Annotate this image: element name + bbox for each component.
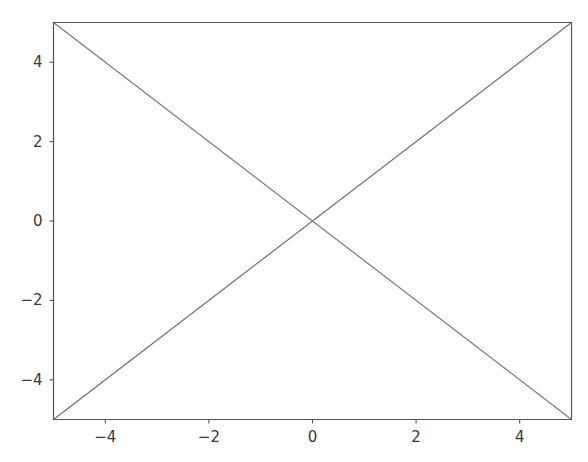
x-axis-ticks: −4−2024 xyxy=(94,420,524,446)
y-tick-label-2: 0 xyxy=(33,212,43,230)
x-tick-label-0: −4 xyxy=(94,428,116,446)
y-axis-ticks: −4−2024 xyxy=(20,53,53,389)
x-tick-label-3: 2 xyxy=(411,428,421,446)
y-tick-label-3: 2 xyxy=(33,133,43,151)
y-tick-label-1: −2 xyxy=(20,291,42,309)
x-tick-label-2: 0 xyxy=(308,428,318,446)
y-tick-label-0: −4 xyxy=(20,371,42,389)
figure-canvas: −4−2024 −4−2024 xyxy=(0,0,588,462)
line-chart: −4−2024 −4−2024 xyxy=(0,0,588,462)
x-tick-label-4: 4 xyxy=(515,428,525,446)
y-tick-label-4: 4 xyxy=(33,53,43,71)
x-tick-label-1: −2 xyxy=(198,428,220,446)
